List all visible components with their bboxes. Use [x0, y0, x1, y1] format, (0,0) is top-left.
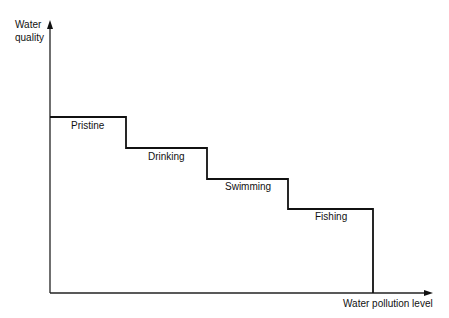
- step-label-drinking: Drinking: [148, 151, 185, 162]
- step-chart: Water quality Water pollution level Pris…: [0, 0, 449, 318]
- y-axis-label-line2: quality: [15, 32, 44, 43]
- step-label-fishing: Fishing: [315, 211, 347, 222]
- quality-step-line: [50, 117, 373, 293]
- step-label-swimming: Swimming: [225, 181, 271, 192]
- y-axis-arrow-icon: [47, 20, 53, 29]
- x-axis-arrow-icon: [424, 290, 433, 296]
- y-axis-label-line1: Water: [15, 19, 42, 30]
- step-label-pristine: Pristine: [71, 120, 105, 131]
- x-axis-label: Water pollution level: [343, 298, 433, 309]
